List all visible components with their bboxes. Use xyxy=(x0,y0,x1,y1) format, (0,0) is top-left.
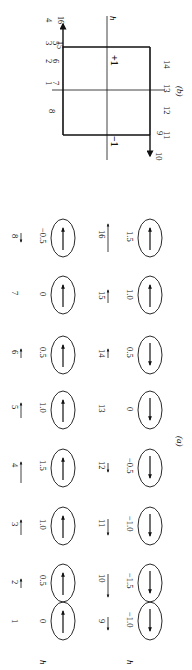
field-value: 0.5 xyxy=(38,347,48,358)
step-number: 11 xyxy=(97,519,107,527)
step-label-4: 4 xyxy=(44,18,54,23)
field-value: −0.5 xyxy=(125,458,135,473)
step-number: 9 xyxy=(97,619,107,623)
step-1: 1 0 xyxy=(10,602,75,640)
step-14: 14 0.5 xyxy=(97,336,162,374)
step-15: 15 1.0 xyxy=(97,276,162,314)
h-axis-label: h xyxy=(108,16,118,21)
step-label-11: 11 xyxy=(162,131,172,139)
step-number: 13 xyxy=(97,404,107,413)
step-label-8: 8 xyxy=(47,109,57,113)
field-value: −1.5 xyxy=(125,573,135,588)
plus-one-label: +1 xyxy=(109,55,120,66)
field-value: 0 xyxy=(125,407,135,411)
step-number: 10 xyxy=(97,574,107,583)
step-12: 12 −0.5 xyxy=(97,449,162,487)
field-value: 0.5 xyxy=(38,575,48,586)
field-value: 1.5 xyxy=(125,231,135,242)
step-label-7: 7 xyxy=(51,81,61,85)
caption-a: (a) xyxy=(175,436,185,447)
step-6: 6 0.5 xyxy=(10,336,75,374)
step-3: 3 1.0 xyxy=(10,507,75,545)
step-number: 2 xyxy=(10,580,20,584)
field-value: 1.0 xyxy=(125,289,135,300)
step-number: 1 xyxy=(10,619,20,623)
step-number: 5 xyxy=(10,405,20,409)
step-number: 6 xyxy=(10,350,20,354)
step-number: 12 xyxy=(97,461,107,470)
step-11: 11 −1.0 xyxy=(97,507,162,545)
step-number: 7 xyxy=(10,291,20,295)
step-number: 15 xyxy=(97,291,107,300)
step-number: 3 xyxy=(10,522,20,526)
step-number: 4 xyxy=(10,463,20,468)
loop-step-labels-bottom: 9 11 10 12 13 14 xyxy=(154,60,172,161)
field-value: −0.5 xyxy=(38,228,48,243)
step-4: 4 1.5 xyxy=(10,449,75,487)
step-9: 9 −1.0 xyxy=(97,602,162,640)
loop-step-labels-top: 1 7 2 6 3 5 15 4 16 8 xyxy=(44,16,65,113)
step-number: 8 xyxy=(10,234,20,238)
step-label-15: 15 xyxy=(55,41,64,49)
step-7: 7 0 xyxy=(10,276,75,314)
step-number: 16 xyxy=(97,230,107,239)
step-number: 14 xyxy=(97,349,107,358)
step-13: 13 0 xyxy=(97,391,162,429)
step-label-12: 12 xyxy=(162,106,172,115)
step-10: 10 −1.5 xyxy=(97,564,162,602)
minus-one-label: −1 xyxy=(109,136,120,147)
field-value: 1.0 xyxy=(38,402,48,413)
hysteresis-loop-diagram: h +1 −1 1 7 2 6 3 5 15 4 16 xyxy=(44,16,185,161)
row2-h-label: h xyxy=(125,660,135,665)
hysteresis-figure: h +1 −1 1 7 2 6 3 5 15 4 16 xyxy=(0,0,192,670)
field-value: 1.5 xyxy=(38,460,48,471)
step-2: 2 0.5 xyxy=(10,564,75,602)
step-label-10: 10 xyxy=(154,152,164,161)
step-label-13: 13 xyxy=(162,84,172,93)
step-label-6: 6 xyxy=(51,59,61,63)
row1-h-label: h xyxy=(38,660,48,665)
field-value: 0 xyxy=(38,292,48,296)
field-value: 1.0 xyxy=(38,519,48,530)
step-label-16: 16 xyxy=(56,16,65,24)
field-value: −1.0 xyxy=(125,516,135,531)
step-5: 5 1.0 xyxy=(10,391,75,429)
field-value: −1.0 xyxy=(125,612,135,627)
field-value: 0.5 xyxy=(125,347,135,358)
step-8: 8 −0.5 xyxy=(10,219,75,257)
step-table: h h 1 0 2 0.5 3 1.0 4 1. xyxy=(10,219,185,665)
field-value: 0 xyxy=(38,619,48,623)
step-label-14: 14 xyxy=(162,60,172,69)
caption-b: (b) xyxy=(175,86,185,97)
step-16: 16 1.5 xyxy=(97,219,162,257)
